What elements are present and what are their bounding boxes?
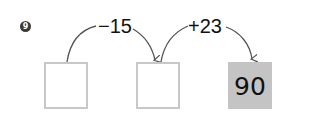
arrow-plus-head bbox=[226, 27, 252, 59]
answer-box-2[interactable] bbox=[136, 62, 180, 109]
answer-box-1[interactable] bbox=[44, 62, 88, 109]
arrow-minus-head bbox=[133, 29, 155, 60]
arrow-plus bbox=[161, 26, 188, 62]
operation-minus-15: −15 bbox=[98, 16, 132, 36]
operation-plus-23: +23 bbox=[188, 16, 222, 36]
result-box: 90 bbox=[228, 62, 272, 109]
arrow-minus bbox=[67, 26, 96, 62]
result-value: 90 bbox=[230, 64, 270, 109]
